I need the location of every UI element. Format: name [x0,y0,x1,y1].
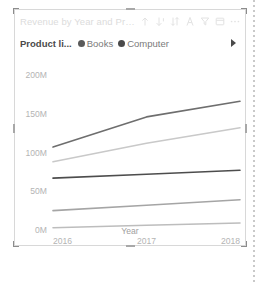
visual-title: Revenue by Year and Produc [20,16,140,27]
x-axis-tick-label: 2017 [137,236,156,245]
chart-line-series[interactable] [53,101,240,147]
visual-header: Revenue by Year and Produc [15,10,245,32]
chart-legend[interactable]: Product li... Books Computer [15,34,245,52]
drill-mode-icon[interactable] [185,16,195,27]
legend-item-label: Computer [127,38,169,49]
resize-handle-middle-right[interactable] [245,124,247,133]
legend-item-books[interactable]: Books [78,38,113,49]
visual-header-toolbar[interactable] [140,16,242,27]
legend-next-arrow-icon[interactable] [231,39,236,47]
y-axis-tick-label: 150M [26,109,48,119]
chart-line-series[interactable] [53,200,240,211]
y-axis-tick-label: 200M [26,70,48,80]
chart-series-lines [53,101,240,227]
chart-plot-area[interactable]: 0M50M100M150M200M 201620172018 Year [15,54,245,245]
chart-line-series[interactable] [53,170,240,178]
y-axis-tick-labels: 0M50M100M150M200M [26,70,48,235]
x-axis-tick-label: 2018 [221,236,240,245]
expand-hierarchy-icon[interactable] [170,16,180,27]
line-chart-svg: 0M50M100M150M200M 201620172018 Year [15,54,245,245]
legend-item-computer[interactable]: Computer [118,38,169,49]
filter-icon[interactable] [200,16,210,27]
focus-mode-icon[interactable] [215,16,225,27]
x-axis-tick-labels: 201620172018 [53,236,240,245]
chart-line-series[interactable] [53,223,240,228]
drill-up-icon[interactable] [140,16,150,27]
legend-swatch-icon [118,40,125,47]
y-axis-tick-label: 0M [35,225,47,235]
more-options-icon[interactable] [230,16,240,27]
resize-handle-bottom-center[interactable] [126,245,135,247]
page-scroll-rail[interactable] [253,0,255,283]
legend-item-label: Books [87,38,113,49]
y-axis-tick-label: 50M [30,186,47,196]
x-axis-tick-label: 2016 [53,236,72,245]
legend-swatch-icon [78,40,85,47]
legend-title: Product li... [20,38,72,49]
drill-down-icon[interactable] [155,16,165,27]
x-axis-title: Year [121,226,139,236]
line-chart-visual[interactable]: Revenue by Year and Produc [15,10,245,245]
y-axis-tick-label: 100M [26,148,48,158]
chart-line-series[interactable] [53,128,240,162]
